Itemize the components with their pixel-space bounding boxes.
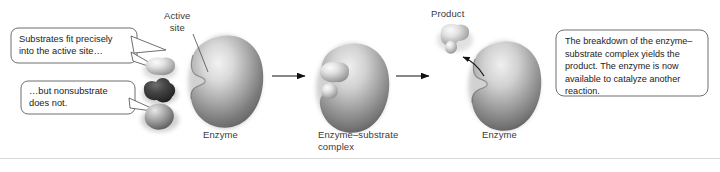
label-active-site: Active site [164, 10, 190, 33]
callout-substrate-fit-text: Substrates fit precisely into the active… [19, 33, 131, 58]
molecule-product [437, 24, 473, 54]
enzyme-blob-stage-3 [468, 41, 541, 131]
label-enzyme-stage-1: Enzyme [203, 129, 238, 141]
molecule-nonsubstrate [142, 78, 178, 105]
callout-nonsubstrate-text: …but nonsubstrate does not. [29, 85, 129, 110]
label-product: Product [431, 8, 464, 20]
label-enzyme-stage-3: Enzyme [482, 129, 517, 141]
enzyme-catalysis-figure: Substrates fit precisely into the active… [0, 0, 720, 172]
stage-3-product-release [437, 24, 541, 131]
label-enzyme-substrate-complex: Enzyme–substrate complex [318, 129, 398, 152]
stage-2-complex [316, 43, 389, 133]
figure-bottom-rule [0, 158, 720, 159]
molecule-substrate [143, 57, 177, 80]
note-box-text: The breakdown of the enzyme– substrate c… [565, 35, 703, 98]
